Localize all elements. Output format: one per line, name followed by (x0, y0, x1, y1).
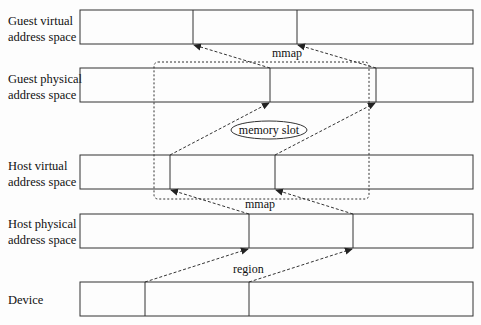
memory-slot-label: memory slot (239, 123, 300, 137)
mmap-label-top: mmap (272, 46, 302, 60)
box-guest-physical (80, 68, 473, 102)
diagram-svg: memory slot mmap mmap region (0, 0, 481, 325)
arrow-hp-to-hv-1 (171, 190, 249, 214)
mmap-label-bottom: mmap (245, 197, 275, 211)
diagram-canvas: Guest virtual address space Guest physic… (0, 0, 481, 325)
arrow-dev-to-hp-2 (249, 249, 352, 282)
region-label: region (233, 262, 264, 276)
arrow-gp-to-gv-2 (298, 45, 376, 68)
arrow-hp-to-hv-2 (276, 190, 353, 214)
box-host-virtual (80, 155, 473, 189)
box-guest-virtual (80, 10, 473, 44)
box-host-physical (80, 214, 473, 248)
arrow-gp-to-gv-1 (194, 45, 270, 68)
box-device (80, 282, 473, 316)
